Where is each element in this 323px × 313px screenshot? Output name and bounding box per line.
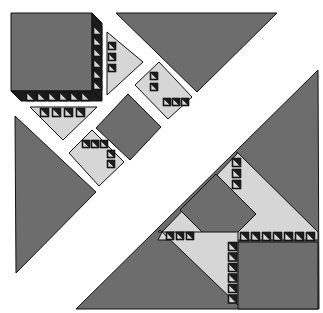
- quilt-block-diagram: [0, 0, 323, 313]
- top-left-square-unit: [11, 13, 92, 91]
- bottom-diamond-teeth: [82, 140, 108, 148]
- quilt-diagram-svg: [0, 0, 323, 313]
- assembled-right-square: [238, 242, 318, 309]
- quilt-pieces: [11, 13, 319, 309]
- right-diamond-bottom-teeth: [163, 98, 189, 106]
- assembled-horizontal-teeth: [240, 232, 315, 241]
- assembled-upper-diag-teeth: [232, 158, 241, 189]
- top-half-square-teeth: [108, 42, 116, 72]
- assembled-left-horizontal-teeth: [166, 232, 194, 240]
